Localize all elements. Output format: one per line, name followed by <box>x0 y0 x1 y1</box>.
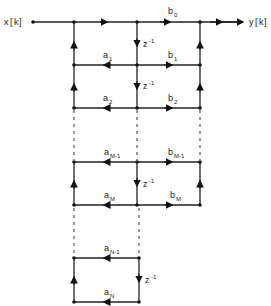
coef-bM: b M <box>170 190 181 202</box>
svg-text:a: a <box>104 190 109 200</box>
delay-2: z -1 <box>143 80 155 91</box>
svg-text:-1: -1 <box>149 178 155 184</box>
svg-text:2: 2 <box>109 99 113 105</box>
output-label: y [ k ] <box>249 17 267 27</box>
svg-text:1: 1 <box>109 56 113 62</box>
svg-text:[: [ <box>10 17 13 27</box>
coef-a1: a 1 <box>103 50 113 62</box>
svg-text:[: [ <box>255 17 258 27</box>
svg-text:z: z <box>143 39 148 49</box>
vertical-lines-middle <box>74 162 200 205</box>
coef-aN-1: a N-1 <box>104 243 120 255</box>
delay-n: z -1 <box>145 274 157 285</box>
svg-text:a: a <box>104 287 109 297</box>
coef-b1: b 1 <box>168 50 178 62</box>
svg-text:-1: -1 <box>149 80 155 86</box>
coef-aM: a M <box>104 190 115 202</box>
svg-text:a: a <box>103 93 108 103</box>
signal-flow-diagram: x [ k ] y [ k ] <box>0 0 271 306</box>
svg-text:-1: -1 <box>149 38 155 44</box>
svg-text:z: z <box>143 81 148 91</box>
svg-text:x: x <box>4 17 9 27</box>
svg-text:a: a <box>104 243 109 253</box>
svg-text:b: b <box>168 50 173 60</box>
svg-text:1: 1 <box>174 56 178 62</box>
svg-text:]: ] <box>19 17 22 27</box>
svg-text:N: N <box>110 293 114 299</box>
delay-1: z -1 <box>143 38 155 49</box>
svg-text:2: 2 <box>174 99 178 105</box>
coef-b2: b 2 <box>168 93 178 105</box>
svg-text:M: M <box>110 196 115 202</box>
svg-text:M: M <box>176 196 181 202</box>
svg-text:M-1: M-1 <box>110 153 121 159</box>
delay-m: z -1 <box>143 178 155 189</box>
svg-text:y: y <box>249 17 254 27</box>
svg-text:]: ] <box>264 17 267 27</box>
coef-b0: b 0 <box>168 6 178 18</box>
input-label: x [ k ] <box>4 17 22 27</box>
svg-text:a: a <box>103 50 108 60</box>
svg-text:b: b <box>168 93 173 103</box>
coef-bM-1: b M-1 <box>168 147 185 159</box>
svg-text:a: a <box>104 147 109 157</box>
svg-text:0: 0 <box>174 12 178 18</box>
svg-text:M-1: M-1 <box>174 153 185 159</box>
coef-aN: a N <box>104 287 114 299</box>
svg-text:z: z <box>143 179 148 189</box>
svg-text:b: b <box>168 6 173 16</box>
svg-text:-1: -1 <box>151 274 157 280</box>
coef-aM-1: a M-1 <box>104 147 121 159</box>
coef-a2: a 2 <box>103 93 113 105</box>
svg-text:b: b <box>170 190 175 200</box>
svg-text:N-1: N-1 <box>110 249 120 255</box>
svg-text:z: z <box>145 275 150 285</box>
svg-text:b: b <box>168 147 173 157</box>
